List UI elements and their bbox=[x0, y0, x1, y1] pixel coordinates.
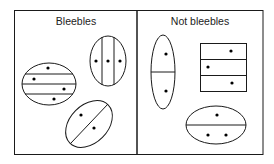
non-bleeble-figure-1 bbox=[151, 35, 175, 109]
non-bleeble-figure-3 bbox=[186, 106, 246, 144]
bleeble-figure-3 bbox=[56, 91, 121, 156]
bleeble-figure-2 bbox=[90, 36, 126, 86]
bleebles-title: Bleebles bbox=[56, 15, 96, 27]
non-bleeble-figure-2 bbox=[201, 44, 247, 92]
bleebles-diagram: Bleebles Not bleebles bbox=[0, 0, 274, 164]
not-bleebles-title: Not bleebles bbox=[171, 15, 229, 27]
bleeble-figure-1 bbox=[22, 63, 76, 105]
